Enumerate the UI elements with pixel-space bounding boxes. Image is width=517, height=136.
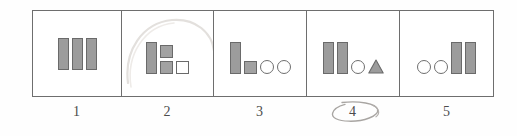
open-circle-shape	[417, 60, 431, 74]
option-cell-1[interactable]	[33, 11, 122, 96]
square-shape	[160, 61, 173, 74]
bar-shape	[465, 42, 476, 74]
bar-shape	[146, 42, 157, 74]
bar-shape	[58, 38, 69, 70]
scanned-page: 1 2 3 4 5	[0, 0, 517, 136]
shape-group-3	[230, 34, 291, 74]
option-label-4: 4	[349, 104, 356, 120]
option-cell-2[interactable]	[122, 11, 214, 96]
bar-shape	[72, 38, 83, 70]
option-label-5-container[interactable]: 5	[399, 99, 494, 129]
open-circle-shape	[277, 60, 291, 74]
triangle-shape	[368, 59, 384, 74]
option-strip	[32, 10, 494, 97]
option-label-2: 2	[164, 104, 171, 120]
option-cell-3[interactable]	[214, 11, 307, 96]
shape-group-5	[417, 34, 476, 74]
option-label-2-container[interactable]: 2	[121, 99, 213, 129]
bar-shape	[451, 42, 462, 74]
option-label-4-container[interactable]: 4	[306, 99, 399, 129]
open-circle-shape	[434, 60, 448, 74]
shape-group-4	[323, 34, 384, 74]
option-label-strip: 1 2 3 4 5	[32, 99, 494, 129]
square-shape	[244, 61, 257, 74]
open-circle-shape	[351, 60, 365, 74]
square-shape	[160, 45, 173, 58]
bar-shape	[230, 42, 241, 74]
open-square-shape	[176, 61, 189, 74]
option-label-1-container[interactable]: 1	[32, 99, 121, 129]
shape-group-1	[58, 34, 97, 74]
option-cell-5[interactable]	[400, 11, 493, 96]
square-stack	[160, 45, 173, 74]
bar-shape	[86, 38, 97, 70]
option-cell-4[interactable]	[307, 11, 400, 96]
option-label-3: 3	[256, 104, 263, 120]
shape-group-2	[146, 34, 189, 74]
open-circle-shape	[260, 60, 274, 74]
bar-shape	[323, 42, 334, 74]
bar-shape	[337, 42, 348, 74]
option-label-3-container[interactable]: 3	[213, 99, 306, 129]
option-label-1: 1	[73, 104, 80, 120]
option-label-5: 5	[443, 104, 450, 120]
